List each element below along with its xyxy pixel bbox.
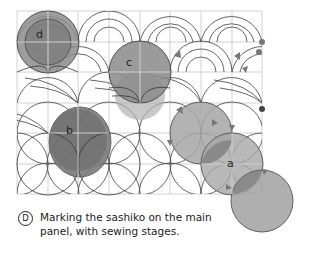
caption-text: Marking the sashiko on the main panel, w…	[40, 210, 240, 238]
dot-icon	[256, 49, 262, 55]
stage-label-b: b	[66, 124, 73, 137]
figure-badge: D	[18, 211, 33, 226]
figure-caption: D Marking the sashiko on the main panel,…	[18, 210, 240, 238]
dot-icon	[259, 106, 265, 112]
dot-icon	[259, 39, 265, 45]
stage-d-highlight: d	[17, 11, 79, 73]
stage-c-highlight: c	[109, 41, 171, 120]
arrow-icon	[234, 52, 240, 60]
stage-label-d: d	[36, 28, 43, 41]
stage-label-c: c	[126, 56, 132, 69]
stage-label-a: a	[227, 157, 234, 170]
